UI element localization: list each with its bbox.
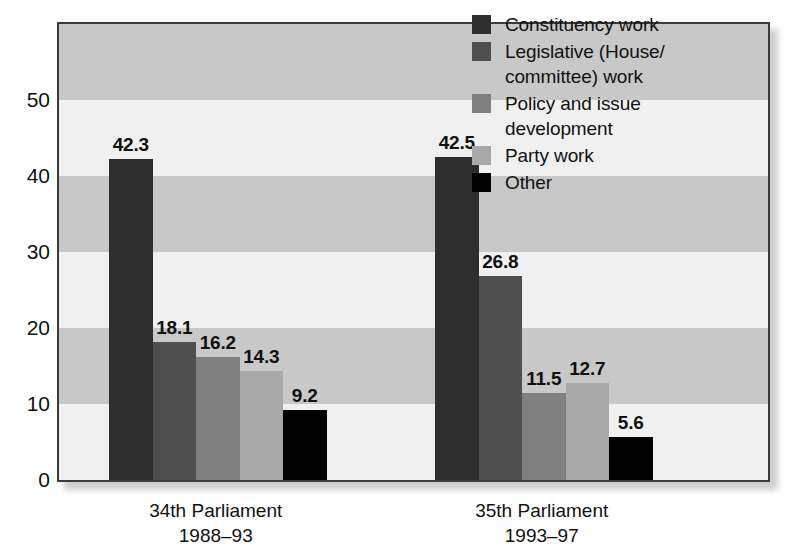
legend-swatch-icon — [472, 42, 491, 61]
legend-label: Party work — [505, 143, 594, 168]
bar — [609, 437, 653, 480]
legend-label: Constituency work — [505, 12, 659, 37]
legend-swatch-icon — [472, 15, 491, 34]
y-axis-tick-label: 20 — [4, 316, 50, 340]
legend-swatch-icon — [472, 146, 491, 165]
category-years: 1993–97 — [393, 523, 691, 548]
legend-label-line: Other — [505, 170, 552, 195]
chart-canvas: 01020304050 42.318.116.214.39.242.526.81… — [0, 0, 797, 560]
y-axis-tick-label: 0 — [4, 468, 50, 492]
legend-label-line: Policy and issue — [505, 91, 641, 116]
bar — [522, 393, 566, 480]
bar-value-label: 26.8 — [473, 251, 529, 273]
legend-swatch-icon — [472, 173, 491, 192]
y-axis-tick-label: 30 — [4, 240, 50, 264]
bar-value-label: 9.2 — [277, 385, 333, 407]
legend-swatch-icon — [472, 94, 491, 113]
legend-label: Legislative (House/committee) work — [505, 39, 665, 89]
x-axis-category-label: 34th Parliament1988–93 — [67, 498, 365, 548]
x-axis-labels: 34th Parliament1988–9335th Parliament199… — [57, 492, 770, 554]
bar — [435, 157, 479, 480]
category-years: 1988–93 — [67, 523, 365, 548]
legend-label-line: Party work — [505, 143, 594, 168]
y-axis: 01020304050 — [0, 22, 50, 482]
bar — [153, 342, 197, 480]
category-name: 35th Parliament — [393, 498, 691, 523]
legend-label-line: Legislative (House/ — [505, 39, 665, 64]
legend-label-line: committee) work — [505, 64, 665, 89]
bar — [283, 410, 327, 480]
legend-label: Policy and issuedevelopment — [505, 91, 641, 141]
bar-value-label: 12.7 — [560, 358, 616, 380]
y-axis-tick-label: 50 — [4, 88, 50, 112]
chart-legend: Constituency workLegislative (House/comm… — [472, 12, 710, 197]
legend-label-line: development — [505, 116, 641, 141]
category-name: 34th Parliament — [67, 498, 365, 523]
legend-item[interactable]: Policy and issuedevelopment — [472, 91, 710, 141]
y-axis-tick-label: 10 — [4, 392, 50, 416]
bar-value-label: 42.3 — [103, 134, 159, 156]
y-axis-tick-label: 40 — [4, 164, 50, 188]
legend-label: Other — [505, 170, 552, 195]
x-axis-category-label: 35th Parliament1993–97 — [393, 498, 691, 548]
bar-value-label: 5.6 — [603, 412, 659, 434]
legend-label-line: Constituency work — [505, 12, 659, 37]
legend-item[interactable]: Other — [472, 170, 710, 195]
legend-item[interactable]: Constituency work — [472, 12, 710, 37]
bar-value-label: 14.3 — [234, 346, 290, 368]
bar — [196, 357, 240, 480]
legend-item[interactable]: Legislative (House/committee) work — [472, 39, 710, 89]
legend-item[interactable]: Party work — [472, 143, 710, 168]
